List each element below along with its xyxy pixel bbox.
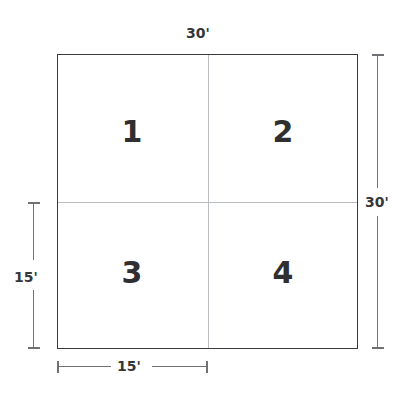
- dimension-line-bottom-left: [57, 366, 111, 367]
- dimension-line-right-lower: [377, 216, 378, 349]
- dimension-label-left: 15': [14, 270, 38, 284]
- divider-horizontal-line: [58, 202, 357, 203]
- dimension-line-left-lower: [33, 290, 34, 349]
- dimension-line-right-upper: [377, 54, 378, 188]
- diagram-canvas: 30' 1 2 3 4 30' 15' 15': [0, 0, 412, 394]
- quadrant-label-1: 1: [97, 117, 167, 147]
- quadrant-label-4: 4: [248, 258, 318, 288]
- dimension-label-top: 30': [186, 26, 210, 40]
- dimension-line-bottom-right: [152, 366, 208, 367]
- dimension-label-right: 30': [365, 195, 389, 209]
- quadrant-label-3: 3: [97, 258, 167, 288]
- dimension-line-left-upper: [33, 202, 34, 260]
- dimension-label-bottom: 15': [117, 359, 141, 373]
- quadrant-label-2: 2: [248, 117, 318, 147]
